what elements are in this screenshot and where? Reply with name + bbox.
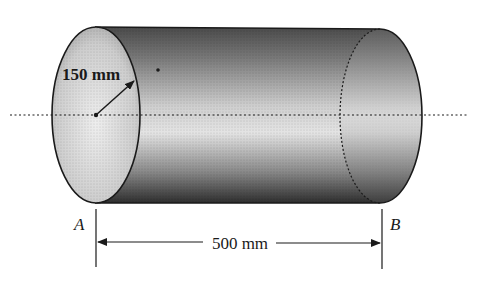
radius-label: 150 mm (62, 65, 120, 84)
end-label-b: B (390, 215, 401, 234)
length-dimension: 500 mm (96, 209, 382, 269)
cylinder-diagram: 150 mm 500 mm A B (0, 0, 482, 286)
length-label: 500 mm (212, 234, 268, 253)
end-label-a: A (73, 215, 85, 234)
